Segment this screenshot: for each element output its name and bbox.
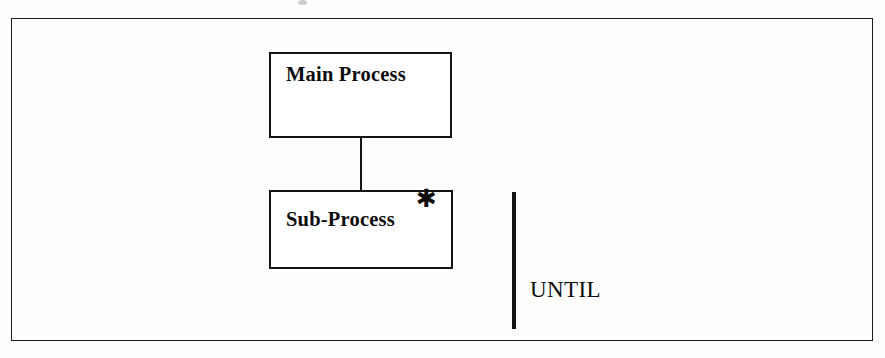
- process-connector-line: [360, 137, 362, 191]
- until-label: UNTIL: [530, 277, 601, 303]
- asterisk-icon: ✱: [416, 186, 437, 211]
- main-process-label: Main Process: [286, 63, 406, 86]
- sub-process-node: ✱ Sub-Process: [269, 190, 453, 269]
- sub-process-label: Sub-Process: [286, 208, 395, 231]
- until-vertical-bar: [512, 192, 516, 329]
- scan-artifact: [298, 0, 307, 5]
- diagram-canvas: Main Process ✱ Sub-Process UNTIL: [0, 0, 885, 358]
- main-process-node: Main Process: [269, 52, 452, 138]
